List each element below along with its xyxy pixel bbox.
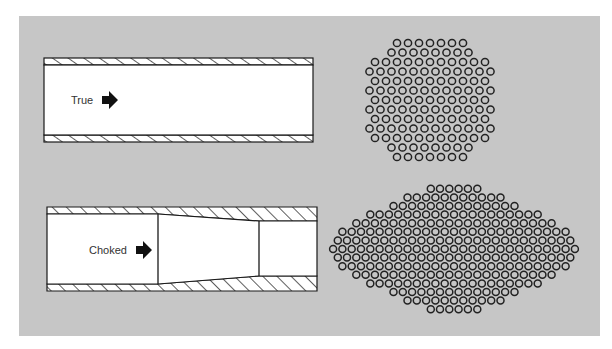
flow-diagram: True Choked [0, 0, 612, 349]
choked-flow-label: Choked [89, 244, 127, 256]
true-flow-pipe: True [44, 58, 313, 142]
pipe-top-wall [44, 58, 313, 65]
true-flow-label: True [71, 94, 93, 106]
choked-flow-pipe: Choked [47, 207, 317, 291]
pipe-bore [47, 214, 317, 284]
pipe-bottom-wall [44, 135, 313, 142]
